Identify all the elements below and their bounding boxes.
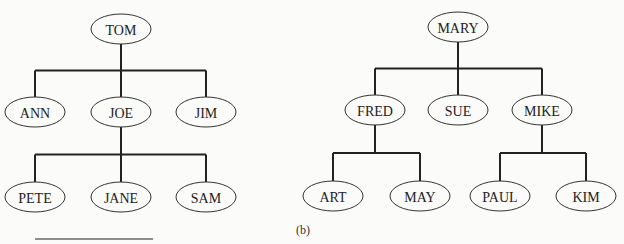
- node-label: SUE: [445, 104, 471, 119]
- node-label: MAY: [404, 190, 435, 205]
- node-jim: JIM: [176, 97, 236, 127]
- node-may: MAY: [390, 181, 450, 211]
- node-fred: FRED: [345, 95, 405, 125]
- tree-b: MARYFREDSUEMIKEARTMAYPAULKIM: [303, 12, 616, 211]
- node-label: FRED: [357, 104, 393, 119]
- node-pete: PETE: [5, 182, 65, 212]
- node-sam: SAM: [176, 182, 236, 212]
- tree-diagram-canvas: TOMANNJOEJIMPETEJANESAMMARYFREDSUEMIKEAR…: [0, 0, 624, 244]
- node-mike: MIKE: [512, 95, 572, 125]
- node-label: MARY: [437, 21, 478, 36]
- node-mary: MARY: [428, 12, 488, 42]
- node-paul: PAUL: [470, 181, 530, 211]
- node-kim: KIM: [556, 181, 616, 211]
- node-label: JOE: [109, 106, 133, 121]
- node-label: ART: [319, 190, 347, 205]
- node-joe: JOE: [91, 97, 151, 127]
- caption-b: (b): [296, 223, 310, 238]
- node-art: ART: [303, 181, 363, 211]
- node-ann: ANN: [5, 97, 65, 127]
- node-label: PETE: [18, 191, 51, 206]
- node-label: ANN: [20, 106, 50, 121]
- tree-a: TOMANNJOEJIMPETEJANESAM: [5, 14, 236, 212]
- node-label: PAUL: [482, 190, 517, 205]
- node-label: MIKE: [524, 104, 560, 119]
- node-label: TOM: [106, 23, 137, 38]
- node-jane: JANE: [91, 182, 151, 212]
- node-label: KIM: [572, 190, 600, 205]
- node-label: SAM: [191, 191, 222, 206]
- node-label: JIM: [195, 106, 218, 121]
- node-sue: SUE: [428, 95, 488, 125]
- node-label: JANE: [104, 191, 138, 206]
- node-tom: TOM: [91, 14, 151, 44]
